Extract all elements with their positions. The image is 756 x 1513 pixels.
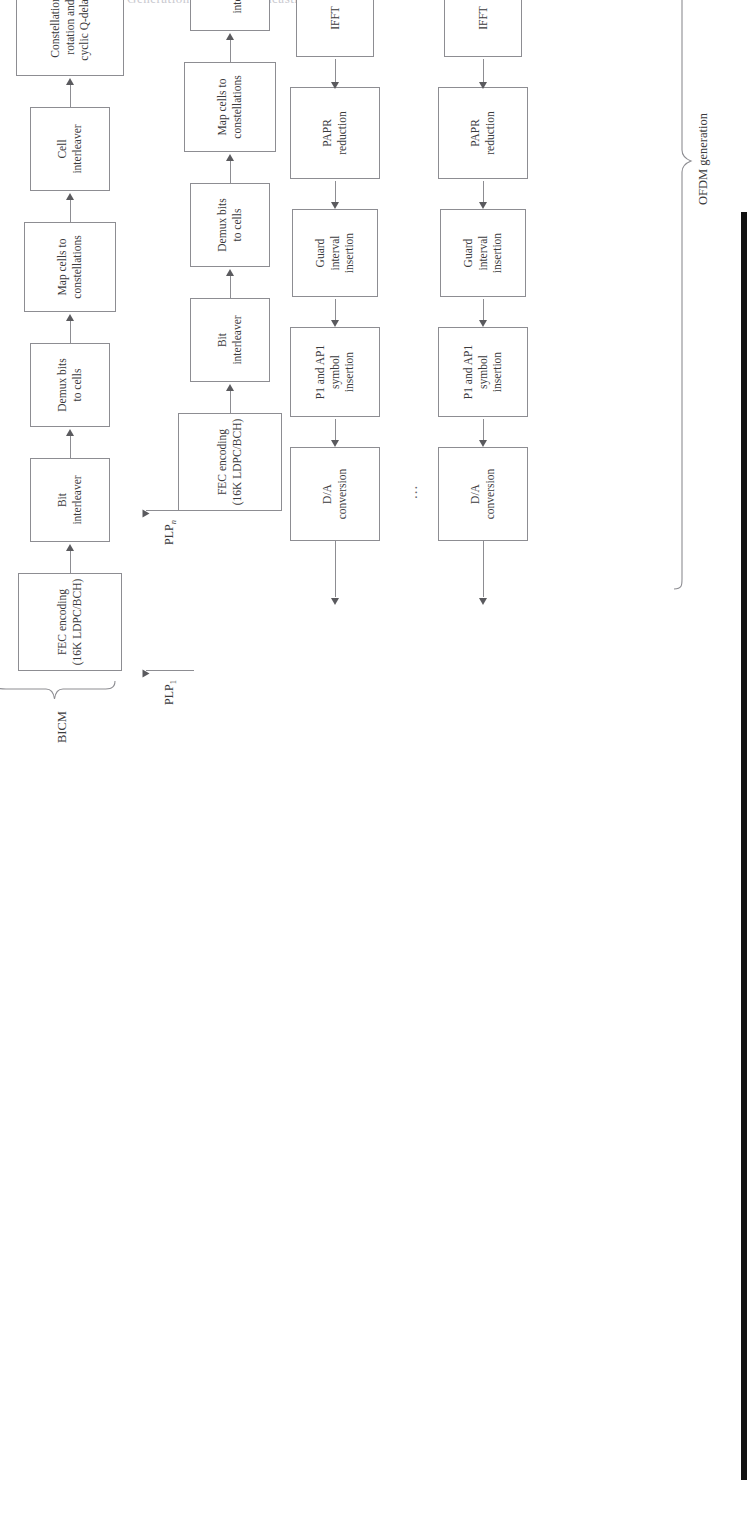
ofdmn-arrow-line-3 bbox=[483, 59, 484, 83]
ofdm1-arrow-line-4 bbox=[335, 181, 336, 203]
ofdm1-block-ifft: IFFT bbox=[296, 0, 374, 57]
bicmn-arrow-line-4 bbox=[230, 38, 231, 62]
plpn-label-sub: n bbox=[168, 520, 178, 524]
ofdm1-block-papr: PAPR reduction bbox=[290, 87, 380, 179]
plp1-label-sub: 1 bbox=[168, 680, 178, 684]
bicm1-arrow-line-5 bbox=[70, 83, 71, 107]
ofdmn-arrow-line-4 bbox=[483, 181, 484, 203]
bicmn-block-fec: FEC encoding (16K LDPC/BCH) bbox=[178, 413, 282, 511]
bicmn-block-bit-interleaver: Bit interleaver bbox=[190, 298, 270, 382]
ofdmn-output-arrowhead bbox=[479, 598, 487, 605]
bicm1-block-fec: FEC encoding (16K LDPC/BCH) bbox=[18, 573, 122, 671]
ofdmn-block-p1-ap1: P1 and AP1 symbol insertion bbox=[438, 327, 528, 417]
ofdm-group-label: OFDM generation bbox=[696, 113, 711, 205]
bicm-brace bbox=[0, 679, 117, 701]
ofdm1-block-p1-ap1: P1 and AP1 symbol insertion bbox=[290, 327, 380, 417]
ofdm1-arrowhead-6 bbox=[331, 440, 339, 447]
ofdm-da-ellipsis: ... bbox=[405, 485, 420, 499]
ofdmn-arrowhead-6 bbox=[479, 440, 487, 447]
ofdm1-arrow-line-3 bbox=[335, 59, 336, 83]
bicmn-block-map: Map cells to constellations bbox=[184, 62, 276, 152]
ofdm1-block-da-conversion: D/A conversion bbox=[290, 447, 380, 541]
ofdmn-arrowhead-5 bbox=[479, 320, 487, 327]
plpn-label-text: PLP bbox=[162, 524, 176, 545]
plp1-input-arrowhead bbox=[143, 670, 150, 678]
bicmn-arrowhead-3 bbox=[226, 154, 234, 161]
ofdmn-output-line bbox=[483, 541, 484, 597]
ofdm1-arrowhead-5 bbox=[331, 320, 339, 327]
ofdmn-block-papr: PAPR reduction bbox=[438, 87, 528, 179]
bicmn-arrowhead-2 bbox=[226, 269, 234, 276]
plp1-input-line bbox=[146, 670, 194, 671]
bicmn-arrow-line-3 bbox=[230, 159, 231, 183]
bicmn-arrow-line-2 bbox=[230, 274, 231, 298]
ofdm1-output-arrowhead bbox=[331, 598, 339, 605]
bicm1-arrowhead-3 bbox=[66, 314, 74, 321]
bicmn-arrowhead-1 bbox=[226, 384, 234, 391]
ofdm1-arrow-line-6 bbox=[335, 419, 336, 441]
bicm1-arrowhead-2 bbox=[66, 429, 74, 436]
bicm1-block-cell-interleaver: Cell interleaver bbox=[30, 107, 110, 191]
bicm1-arrow-line-3 bbox=[70, 319, 71, 343]
ofdmn-arrowhead-4 bbox=[479, 202, 487, 209]
bicm1-block-constellation-rotation: Constellation rotation and cyclic Q-dela… bbox=[16, 0, 124, 76]
ofdmn-block-da-conversion: D/A conversion bbox=[438, 447, 528, 541]
bicm1-block-bit-interleaver: Bit interleaver bbox=[30, 458, 110, 542]
ofdmn-arrow-line-5 bbox=[483, 299, 484, 321]
bicmn-block-demux: Demux bits to cells bbox=[190, 183, 270, 267]
bicm1-block-demux: Demux bits to cells bbox=[30, 343, 110, 427]
bicm1-arrow-line-1 bbox=[70, 549, 71, 573]
ofdmn-block-guard-interval: Guard interval insertion bbox=[440, 209, 526, 297]
ofdmn-arrowhead-3 bbox=[479, 82, 487, 89]
bicm1-arrowhead-4 bbox=[66, 193, 74, 200]
ofdm1-arrowhead-3 bbox=[331, 82, 339, 89]
ofdm-brace bbox=[672, 0, 694, 591]
ofdmn-block-ifft: IFFT bbox=[444, 0, 522, 57]
bicm1-arrowhead-1 bbox=[66, 544, 74, 551]
ofdm1-arrow-line-5 bbox=[335, 299, 336, 321]
bicm1-arrowhead-5 bbox=[66, 78, 74, 85]
ofdmn-arrow-line-6 bbox=[483, 419, 484, 441]
bicmn-arrow-line-1 bbox=[230, 389, 231, 413]
ofdm1-output-line bbox=[335, 541, 336, 597]
plpn-input-arrowhead bbox=[143, 510, 150, 518]
bicmn-block-cell-interleaver: Cell interleaver bbox=[190, 0, 270, 31]
bicm-group-label: BICM bbox=[55, 711, 70, 743]
plp1-label: PLP1 bbox=[162, 680, 178, 705]
bicmn-arrowhead-4 bbox=[226, 33, 234, 40]
plpn-label: PLPn bbox=[162, 520, 178, 545]
bicm1-arrow-line-4 bbox=[70, 198, 71, 222]
bicm1-block-map: Map cells to constellations bbox=[24, 222, 116, 312]
ofdm1-arrowhead-4 bbox=[331, 202, 339, 209]
ofdm1-block-guard-interval: Guard interval insertion bbox=[292, 209, 378, 297]
bicm1-arrow-line-2 bbox=[70, 434, 71, 458]
plp1-label-text: PLP bbox=[162, 684, 176, 705]
figure-block-diagram: PLP1 PLPn BICM FEC encoding (16K LDPC/BC… bbox=[0, 0, 756, 757]
